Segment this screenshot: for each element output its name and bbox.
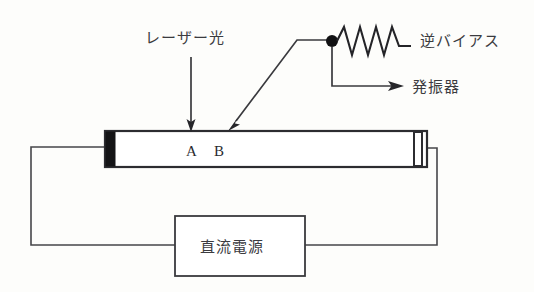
tube-right-mirror-icon bbox=[414, 132, 422, 166]
laser-light-label: レーザー光 bbox=[145, 29, 225, 47]
point-b-label: B bbox=[214, 143, 224, 159]
oscillator-label: 発振器 bbox=[412, 78, 460, 96]
figure-root: A B レーザー光 逆バイアス 発振器 直流電源 bbox=[0, 0, 534, 292]
diagram-canvas: A B レーザー光 逆バイアス 発振器 直流電源 bbox=[0, 0, 534, 292]
laser-tube-body bbox=[105, 131, 427, 167]
detector-pointer-arrow-icon bbox=[228, 119, 240, 132]
reverse-bias-label: 逆バイアス bbox=[420, 32, 500, 50]
detector-pointer-line bbox=[236, 40, 332, 121]
tube-left-mirror-icon bbox=[106, 132, 115, 166]
zigzag-resistor-icon bbox=[337, 27, 411, 55]
junction-dot-icon bbox=[326, 35, 338, 47]
point-a-label: A bbox=[186, 143, 197, 159]
dc-power-supply-label: 直流電源 bbox=[200, 238, 264, 256]
